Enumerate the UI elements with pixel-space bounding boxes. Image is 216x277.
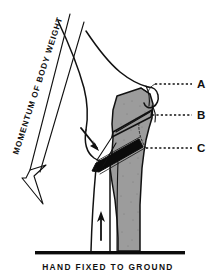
figure-canvas: MOMENTUM OF BODY WEIGHT A B C [0,0,216,277]
callout-a[interactable]: A [148,78,205,92]
momentum-label-text: MOMENTUM OF BODY WEIGHT [11,16,64,156]
joint-compression-arrow [81,128,99,151]
callout-a-label: A [197,78,205,90]
callout-b-label: B [197,109,205,121]
figure-caption: HAND FIXED TO GROUND [42,262,174,272]
callout-c-label: C [197,142,205,154]
momentum-label: MOMENTUM OF BODY WEIGHT [11,16,64,156]
ground-reaction-arrow [97,211,105,240]
anatomical-figure: MOMENTUM OF BODY WEIGHT A B C [0,0,216,277]
callout-b[interactable]: B [152,109,205,121]
ground-line [35,251,185,254]
